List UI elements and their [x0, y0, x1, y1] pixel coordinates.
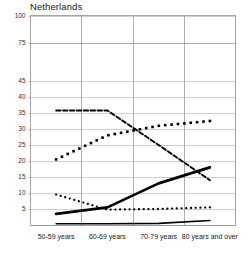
chart-container: Netherlands 1007545403530252015105 50-59… — [0, 0, 249, 256]
series-marker-round — [55, 193, 57, 195]
series-marker-round — [100, 207, 102, 209]
series-marker-square — [209, 120, 212, 123]
series-marker-square — [113, 133, 116, 136]
series-marker-round — [180, 207, 182, 209]
series-marker-round — [176, 207, 178, 209]
y-axis-tick-label: 15 — [18, 173, 26, 180]
series-marker-square — [183, 122, 186, 125]
series-marker-square — [120, 132, 123, 135]
series-marker-square — [164, 124, 167, 127]
series-marker-square — [66, 153, 69, 156]
series-marker-square — [170, 123, 173, 126]
x-axis-tick-label: 80 years and over — [182, 233, 239, 241]
series-marker-round — [87, 203, 89, 205]
series-marker-square — [145, 127, 148, 130]
y-axis-tick-label: 20 — [18, 157, 26, 164]
series-marker-square — [107, 134, 110, 137]
y-axis-tick-label: 10 — [18, 189, 26, 196]
series-marker-round — [114, 208, 116, 210]
series-marker-round — [105, 208, 107, 210]
series-marker-square — [78, 147, 81, 150]
series-marker-round — [199, 207, 201, 209]
series-marker-square — [95, 139, 98, 142]
y-axis-tick-label: 45 — [18, 77, 26, 84]
series-marker-round — [157, 208, 159, 210]
series-marker-round — [82, 201, 84, 203]
series-marker-square — [72, 150, 75, 153]
series-marker-round — [152, 208, 154, 210]
series-marker-square — [101, 136, 104, 139]
series-marker-round — [110, 208, 112, 210]
series-marker-round — [204, 206, 206, 208]
series-marker-round — [143, 208, 145, 210]
series-marker-square — [61, 155, 64, 158]
x-axis-tick-label: 60-69 years — [89, 233, 126, 241]
series-marker-round — [209, 206, 211, 208]
series-marker-round — [185, 207, 187, 209]
series-marker-square — [151, 126, 154, 129]
y-axis-tick-label: 30 — [18, 125, 26, 132]
series-marker-round — [91, 204, 93, 206]
series-marker-round — [195, 207, 197, 209]
x-axis-tick-label: 50-59 years — [38, 233, 75, 241]
series-marker-square — [158, 124, 161, 127]
series-marker-round — [119, 208, 121, 210]
series-marker-round — [60, 195, 62, 197]
series-marker-round — [64, 196, 66, 198]
series-marker-square — [202, 120, 205, 123]
chart-plot-area: 1007545403530252015105 50-59 years60-69 … — [0, 0, 249, 256]
y-axis-tick-label: 75 — [18, 39, 26, 46]
series-marker-round — [78, 200, 80, 202]
series-marker-round — [96, 205, 98, 207]
y-axis-tick-label: 40 — [18, 93, 26, 100]
y-axis-tick-label: 100 — [15, 12, 26, 19]
x-axis-tick-label: 70-79 years — [140, 233, 177, 241]
series-marker-square — [84, 145, 87, 148]
series-marker-round — [138, 208, 140, 210]
y-axis-tick-label: 5 — [22, 205, 26, 212]
series-marker-square — [189, 121, 192, 124]
series-marker-round — [128, 208, 130, 210]
series-marker-square — [90, 142, 93, 145]
series-marker-round — [73, 199, 75, 201]
y-axis-tick-label: 25 — [18, 141, 26, 148]
series-marker-square — [196, 121, 199, 124]
series-marker-round — [190, 207, 192, 209]
series-marker-round — [124, 208, 126, 210]
series-marker-square — [126, 130, 129, 133]
x-axis-tick-labels: 50-59 years60-69 years70-79 years80 year… — [38, 233, 239, 241]
series-marker-square — [55, 158, 58, 161]
series-marker-round — [133, 208, 135, 210]
y-axis-tick-label: 35 — [18, 109, 26, 116]
series-marker-round — [166, 208, 168, 210]
series-marker-round — [171, 207, 173, 209]
series-marker-square — [177, 123, 180, 126]
series-marker-round — [69, 197, 71, 199]
y-axis-tick-labels: 1007545403530252015105 — [15, 12, 26, 212]
series-marker-round — [147, 208, 149, 210]
series-marker-square — [139, 128, 142, 131]
series-marker-round — [161, 208, 163, 210]
